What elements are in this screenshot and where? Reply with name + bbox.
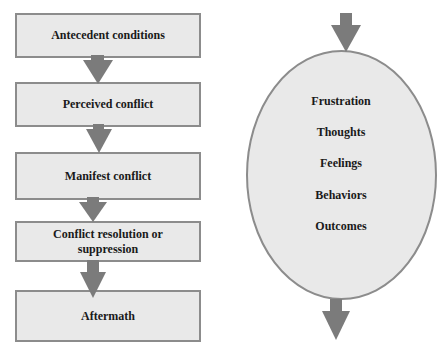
oval-item-thoughts: Thoughts [291,125,391,139]
flow-arrows [0,0,445,357]
oval-item-outcomes: Outcomes [291,219,391,233]
arrow-down-icon [79,197,107,222]
arrow-down-icon [83,55,113,84]
oval-item-behaviors: Behaviors [291,188,391,202]
oval-item-feelings: Feelings [291,156,391,170]
arrow-down-icon [80,260,106,298]
arrow-down-icon [86,124,112,153]
oval-item-frustration: Frustration [291,94,391,108]
